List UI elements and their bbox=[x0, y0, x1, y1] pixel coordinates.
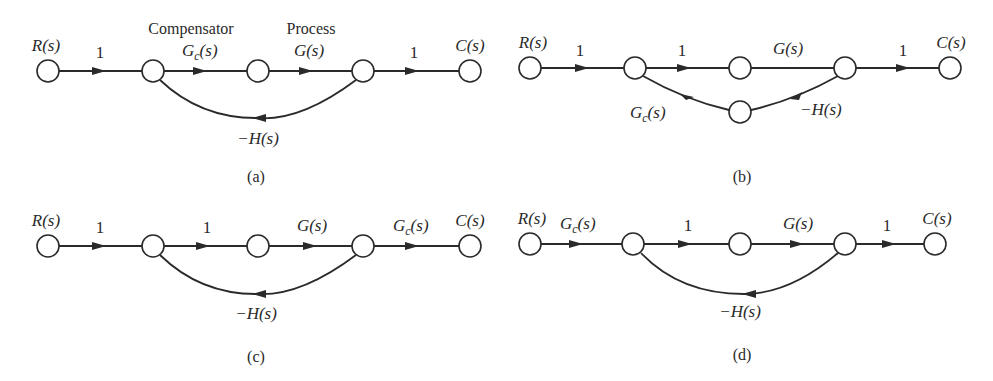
arrow-icon bbox=[896, 64, 910, 72]
caption: (c) bbox=[247, 348, 265, 366]
output-label: C(s) bbox=[455, 211, 485, 230]
node-3 bbox=[352, 235, 374, 257]
g-label: G(s) bbox=[297, 216, 328, 235]
gain-label: 1 bbox=[899, 41, 908, 60]
node-3 bbox=[834, 233, 856, 255]
feedback-label: −H(s) bbox=[719, 302, 761, 321]
panel-c: R(s) 1 1 G(s) Gc(s) C(s) −H(s) (c) bbox=[31, 211, 485, 366]
gain-label: 1 bbox=[96, 218, 105, 237]
arrow-icon bbox=[742, 290, 756, 298]
gc-label: Gc(s) bbox=[630, 103, 666, 125]
feedback-label: −H(s) bbox=[235, 304, 277, 323]
caption: (d) bbox=[733, 346, 752, 364]
output-label: C(s) bbox=[455, 36, 485, 55]
arrow-icon bbox=[92, 67, 106, 75]
arrow-icon bbox=[882, 240, 896, 248]
output-label: C(s) bbox=[922, 209, 952, 228]
node-2 bbox=[247, 235, 269, 257]
node-output bbox=[924, 233, 946, 255]
node-3 bbox=[834, 57, 856, 79]
feedback-label: −H(s) bbox=[800, 100, 842, 119]
signal-flow-graphs-figure: Compensator Process R(s) 1 Gc(s) G(s) 1 … bbox=[0, 0, 993, 381]
arrow-icon bbox=[196, 242, 210, 250]
node-3 bbox=[352, 60, 374, 82]
node-2 bbox=[247, 60, 269, 82]
node-2 bbox=[729, 233, 751, 255]
caption: (b) bbox=[733, 168, 752, 186]
feedback-edge bbox=[160, 255, 356, 294]
input-label: R(s) bbox=[31, 36, 61, 55]
node-input bbox=[37, 235, 59, 257]
node-input bbox=[37, 60, 59, 82]
node-1 bbox=[142, 60, 164, 82]
g-label: G(s) bbox=[773, 39, 804, 58]
node-input bbox=[519, 57, 541, 79]
node-input bbox=[519, 233, 541, 255]
arrow-icon bbox=[193, 67, 207, 75]
gain-label: 1 bbox=[203, 218, 212, 237]
node-feedback bbox=[729, 101, 751, 123]
gc-label: Gc(s) bbox=[393, 216, 429, 238]
node-output bbox=[459, 60, 481, 82]
feedback-edge bbox=[160, 80, 356, 118]
node-1 bbox=[624, 57, 646, 79]
arrow-icon bbox=[303, 242, 317, 250]
arrow-icon bbox=[790, 240, 804, 248]
input-label: R(s) bbox=[517, 209, 547, 228]
gain-label: 1 bbox=[883, 216, 892, 235]
node-output bbox=[459, 235, 481, 257]
panel-d: R(s) Gc(s) 1 G(s) 1 C(s) −H(s) (d) bbox=[517, 209, 952, 364]
arrow-icon bbox=[575, 64, 589, 72]
g-label: G(s) bbox=[783, 214, 814, 233]
gain-label: 1 bbox=[684, 216, 693, 235]
feedback-edge bbox=[641, 253, 838, 294]
arrow-icon bbox=[790, 92, 802, 100]
arrow-icon bbox=[405, 67, 419, 75]
panel-b: R(s) 1 1 G(s) 1 C(s) Gc(s) −H(s) (b) bbox=[518, 33, 966, 186]
node-1 bbox=[142, 235, 164, 257]
gain-label: 1 bbox=[576, 41, 585, 60]
gc-label: Gc(s) bbox=[182, 41, 218, 63]
g-label: G(s) bbox=[294, 41, 325, 60]
arrow-icon bbox=[569, 240, 583, 248]
node-1 bbox=[622, 233, 644, 255]
output-label: C(s) bbox=[936, 33, 966, 52]
panel-a: Compensator Process R(s) 1 Gc(s) G(s) 1 … bbox=[31, 20, 485, 186]
arrow-icon bbox=[677, 64, 691, 72]
gc-label: Gc(s) bbox=[560, 214, 596, 236]
node-output bbox=[939, 57, 961, 79]
feedback-label: −H(s) bbox=[237, 129, 279, 148]
arrow-icon bbox=[252, 114, 266, 122]
arrow-icon bbox=[92, 242, 106, 250]
caption: (a) bbox=[247, 168, 265, 186]
arrow-icon bbox=[252, 290, 266, 298]
arrow-icon bbox=[678, 240, 692, 248]
input-label: R(s) bbox=[31, 211, 61, 230]
arrow-icon bbox=[405, 242, 419, 250]
gain-label: 1 bbox=[410, 43, 419, 62]
arrow-icon bbox=[299, 67, 313, 75]
compensator-header: Compensator bbox=[148, 20, 234, 38]
gain-label: 1 bbox=[678, 41, 687, 60]
node-2 bbox=[729, 57, 751, 79]
gain-label: 1 bbox=[96, 43, 105, 62]
input-label: R(s) bbox=[518, 33, 548, 52]
process-header: Process bbox=[287, 20, 336, 37]
